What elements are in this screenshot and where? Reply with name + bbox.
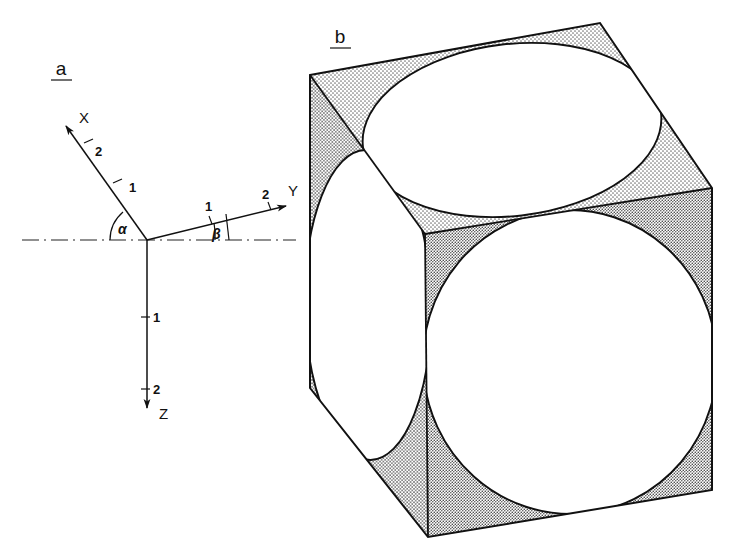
cube-with-inscribed-circles bbox=[302, 23, 727, 537]
x-axis-tick-1-label: 1 bbox=[129, 180, 136, 195]
y-axis-tick-2-label: 2 bbox=[262, 187, 269, 202]
x-axis-tick-1 bbox=[113, 179, 122, 183]
panel-b: b bbox=[302, 23, 727, 537]
beta-angle-closing-tick bbox=[226, 214, 229, 240]
y-axis-tick-2 bbox=[268, 202, 271, 210]
beta-angle: β bbox=[211, 214, 229, 242]
panel-a: a 1 2 X 1 2 Y bbox=[22, 58, 298, 422]
y-axis: 1 2 Y bbox=[147, 182, 298, 240]
cube-right-face bbox=[413, 188, 727, 537]
beta-angle-label: β bbox=[211, 226, 221, 242]
x-axis: 1 2 X bbox=[66, 109, 147, 240]
z-axis-tick-2-label: 2 bbox=[153, 382, 160, 397]
z-axis: 1 2 Z bbox=[141, 240, 168, 422]
z-axis-label: Z bbox=[159, 405, 168, 422]
x-axis-tick-2-label: 2 bbox=[95, 144, 102, 159]
x-axis-label: X bbox=[79, 109, 89, 126]
z-axis-tick-1-label: 1 bbox=[153, 310, 160, 325]
y-axis-tick-1-label: 1 bbox=[205, 199, 212, 214]
panel-b-label: b bbox=[335, 26, 346, 47]
panel-a-label: a bbox=[56, 58, 67, 79]
y-axis-label: Y bbox=[288, 182, 298, 199]
alpha-angle-label: α bbox=[118, 221, 128, 237]
y-axis-tick-1 bbox=[209, 216, 212, 224]
x-axis-tick-2 bbox=[84, 139, 93, 143]
alpha-angle: α bbox=[110, 212, 128, 240]
figure-root: a 1 2 X 1 2 Y bbox=[0, 0, 732, 557]
